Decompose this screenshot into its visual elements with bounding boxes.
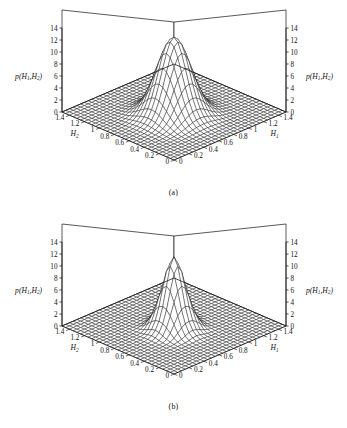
z-tick-left: 12 [50,251,58,259]
z-tick-right: 10 [291,49,299,57]
x-tick-label: 0 [179,372,183,380]
x-tick-label: 0.4 [209,146,218,154]
y-tick-label: 0.6 [115,139,124,147]
z-tick-left: 4 [54,299,58,307]
z-tick-right: 4 [291,85,295,93]
x-tick-label: 0.2 [194,366,203,374]
z-tick-left: 14 [50,25,58,33]
z-tick-left: 10 [50,49,58,57]
x-tick-label: 1.4 [284,114,293,122]
x-tick-label: 0.6 [224,139,233,147]
surface-plot-a-canvas: 0022446688101012121414p(H1,H2)p(H1,H2)00… [0,0,347,196]
z-tick-left: 6 [54,287,58,295]
z-tick-right: 8 [291,275,295,283]
z-tick-right: 6 [291,287,295,295]
x-axis-label: H1 [269,343,278,353]
z-axis-label-left: p(H1,H2) [14,72,42,82]
x-axis-label: H1 [269,129,278,139]
surface-plot-b-canvas: 0022446688101012121414p(H1,H2)p(H1,H2)00… [0,214,347,410]
y-tick-label: 0.2 [145,366,154,374]
x-tick-label: 1 [254,340,258,348]
x-tick-label: 0 [179,158,183,166]
figure-panel-b: 0022446688101012121414p(H1,H2)p(H1,H2)00… [0,214,347,428]
x-tick-label: 1.2 [269,120,278,128]
z-tick-right: 6 [291,73,295,81]
z-tick-right: 4 [291,299,295,307]
z-tick-right: 14 [291,25,299,33]
z-tick-left: 4 [54,85,58,93]
y-tick-label: 0.2 [145,152,154,160]
y-tick-label: 1 [91,340,95,348]
surface-plot-b: 0022446688101012121414p(H1,H2)p(H1,H2)00… [0,214,347,410]
panel-b-caption: (b) [0,402,347,411]
x-tick-label: 0.2 [194,152,203,160]
z-tick-left: 14 [50,239,58,247]
y-tick-label: 1.2 [70,120,79,128]
z-tick-right: 2 [291,311,295,319]
figure-root: 0022446688101012121414p(H1,H2)p(H1,H2)00… [0,0,347,428]
surface-plot-a: 0022446688101012121414p(H1,H2)p(H1,H2)00… [0,0,347,196]
y-tick-label: 1.2 [70,334,79,342]
x-tick-label: 1 [254,126,258,134]
z-axis-label-left: p(H1,H2) [14,286,42,296]
z-tick-left: 10 [50,263,58,271]
z-tick-right: 14 [291,239,299,247]
figure-panel-a: 0022446688101012121414p(H1,H2)p(H1,H2)00… [0,0,347,214]
x-tick-label: 1.4 [284,328,293,336]
y-tick-label: 0.4 [130,146,139,154]
z-tick-left: 6 [54,73,58,81]
y-axis-label: H2 [69,129,78,139]
z-axis-label-right: p(H1,H2) [305,286,333,296]
z-tick-right: 12 [291,37,299,45]
z-tick-left: 2 [54,97,58,105]
x-tick-label: 1.2 [269,334,278,342]
z-tick-right: 2 [291,97,295,105]
x-tick-label: 0.8 [239,133,248,141]
x-tick-label: 0.4 [209,360,218,368]
panel-a-caption: (a) [0,188,347,197]
y-tick-label: 1 [91,126,95,134]
z-tick-left: 8 [54,275,58,283]
z-tick-left: 8 [54,61,58,69]
x-tick-label: 0.8 [239,347,248,355]
y-tick-label: 1.4 [55,114,64,122]
y-tick-label: 0.8 [100,347,109,355]
z-tick-left: 12 [50,37,58,45]
y-tick-label: 0 [165,158,169,166]
z-tick-left: 2 [54,311,58,319]
z-axis-label-right: p(H1,H2) [305,72,333,82]
y-tick-label: 1.4 [55,328,64,336]
y-tick-label: 0.4 [130,360,139,368]
y-tick-label: 0 [165,372,169,380]
x-tick-label: 0.6 [224,353,233,361]
z-tick-right: 10 [291,263,299,271]
y-tick-label: 0.6 [115,353,124,361]
z-tick-right: 8 [291,61,295,69]
y-axis-label: H2 [69,343,78,353]
y-tick-label: 0.8 [100,133,109,141]
z-tick-right: 12 [291,251,299,259]
